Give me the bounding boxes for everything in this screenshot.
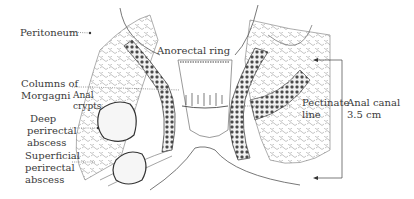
label-deep-abscess-3: abscess	[27, 137, 66, 148]
label-anal-crypts-2: crypts	[73, 101, 101, 111]
label-peritoneum: Peritoneum	[20, 27, 79, 38]
label-pectinate-line-1: Pectinate	[302, 97, 349, 108]
label-anal-canal-1: Anal canal	[347, 97, 400, 108]
label-anal-canal-2: 3.5 cm	[347, 109, 381, 120]
label-anorectal-ring: Anorectal ring	[157, 45, 230, 56]
deep-abscess-pointer-dot	[97, 127, 99, 129]
label-columns-of-morgagni-1: Columns of	[21, 78, 78, 89]
label-superficial-abscess-1: Superficial	[25, 150, 80, 161]
label-columns-of-morgagni-2: Morgagni	[21, 90, 70, 101]
peritoneum-pointer-dot	[89, 32, 91, 34]
deep-perirectal-abscess	[98, 102, 137, 141]
label-pectinate-line-2: line	[302, 109, 321, 120]
bracket-bottom-arrow-icon	[313, 176, 318, 180]
label-deep-abscess-1: Deep	[30, 113, 56, 124]
label-superficial-abscess-3: abscess	[25, 174, 64, 185]
label-anal-crypts-1: Anal	[73, 90, 94, 100]
label-deep-abscess-2: perirectal	[27, 125, 77, 136]
anorectal-diagram: Peritoneum Anorectal ring Columns of Mor…	[0, 0, 414, 199]
label-superficial-abscess-2: perirectal	[25, 162, 75, 173]
